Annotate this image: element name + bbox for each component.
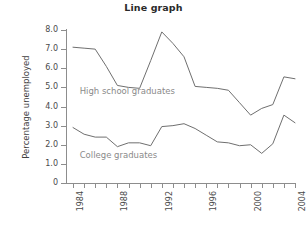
series-label-college-graduates: College graduates [80, 150, 158, 160]
series-line-high-school-graduates [73, 32, 295, 115]
plot-lines [0, 0, 307, 228]
line-chart-figure: Line graph Percentage unemployed 8.07.06… [0, 0, 307, 228]
series-label-high-school-graduates: High school graduates [80, 86, 175, 96]
series-line-college-graduates [73, 115, 295, 153]
